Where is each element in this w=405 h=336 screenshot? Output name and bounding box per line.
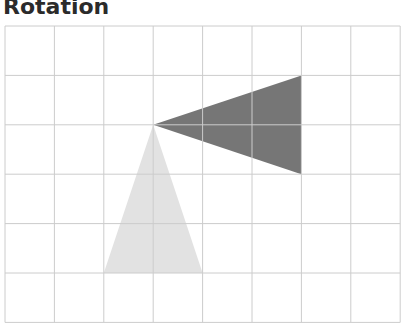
grid-lines — [5, 26, 400, 322]
rotation-diagram — [0, 0, 405, 336]
